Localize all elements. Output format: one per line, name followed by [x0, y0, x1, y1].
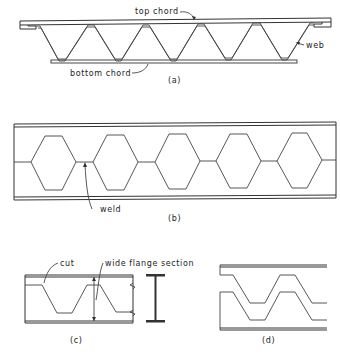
caption-d: (d): [262, 336, 275, 345]
weld-label: weld: [100, 205, 121, 214]
caption-c: (c): [70, 336, 82, 345]
cut-leader: [44, 263, 58, 283]
top-chord-leader: [180, 12, 194, 19]
web-label: web: [306, 41, 324, 50]
weld-leader: [85, 164, 92, 209]
panel-b: weld (b): [14, 122, 336, 223]
caption-a: (a): [168, 76, 181, 85]
panel-a: top chord web bottom chord (a): [20, 7, 331, 85]
upper-half-edge: [220, 275, 327, 303]
bottom-chord-label: bottom chord: [70, 69, 131, 78]
wide-flange-section-label: wide flange section: [105, 259, 194, 268]
web: [36, 23, 314, 61]
bottom-chord-leader: [132, 64, 148, 73]
bottom-chord: [51, 60, 297, 63]
castellated-beam-diagram: top chord web bottom chord (a): [0, 0, 340, 354]
panel-d: (d): [220, 265, 327, 345]
wide-flange-leader: [96, 263, 103, 300]
cut-line: [25, 285, 133, 313]
top-chord-label: top chord: [135, 7, 179, 16]
panel-c: cut wide flange section (c): [25, 259, 194, 345]
i-beam-section-icon: [146, 274, 165, 323]
hexagonal-openings: [14, 133, 336, 190]
lower-half-edge: [220, 292, 327, 320]
caption-b: (b): [168, 214, 181, 223]
cut-label: cut: [60, 259, 74, 268]
top-chord: [20, 18, 331, 29]
